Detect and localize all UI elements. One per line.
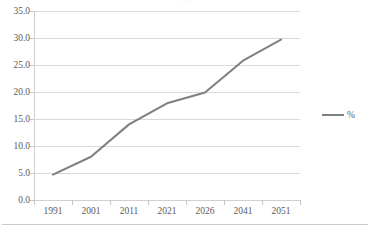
x-tick-mark — [72, 200, 73, 205]
x-tick-mark — [148, 200, 149, 205]
legend-label-percent: % — [347, 110, 355, 120]
y-tick-mark — [30, 38, 34, 39]
series-line-percent — [53, 40, 281, 175]
y-tick-mark — [30, 65, 34, 66]
x-tick-mark — [224, 200, 225, 205]
x-tick-mark — [186, 200, 187, 205]
line-chart: · · · 35.030.025.020.015.010.05.00.0 199… — [0, 0, 372, 234]
y-tick-mark — [30, 119, 34, 120]
x-tick-mark — [34, 200, 35, 205]
y-tick-mark — [30, 146, 34, 147]
y-tick-mark — [30, 11, 34, 12]
y-tick-mark — [30, 173, 34, 174]
legend: % — [322, 110, 355, 120]
x-tick-mark — [300, 200, 301, 205]
y-tick-mark — [30, 92, 34, 93]
series-line-layer — [0, 0, 372, 234]
bottom-divider — [2, 224, 368, 225]
x-tick-mark — [262, 200, 263, 205]
x-tick-mark — [110, 200, 111, 205]
legend-swatch-percent — [322, 114, 344, 116]
